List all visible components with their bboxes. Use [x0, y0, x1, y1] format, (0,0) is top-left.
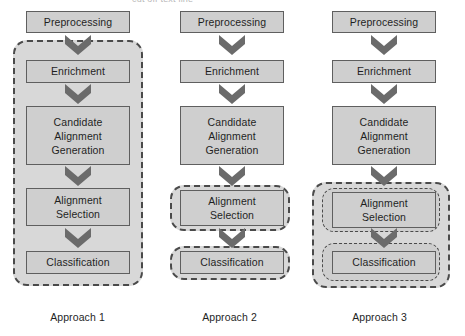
arrow-preprocessing-to-enrichment-1 [65, 35, 91, 56]
node-classification-3[interactable]: Classification [332, 251, 436, 274]
node-label: Enrichment [357, 65, 411, 78]
node-alignment-selection-2[interactable]: Alignment Selection [180, 190, 284, 226]
arrow-candidate-to-selection-1 [65, 166, 91, 187]
node-label-line-2: Alignment [360, 129, 408, 143]
node-label-line-2: Selection [56, 207, 100, 221]
node-candidate-alignment-generation-2[interactable]: Candidate Alignment Generation [180, 106, 284, 165]
node-classification-1[interactable]: Classification [26, 251, 130, 274]
node-label-line-1: Alignment [208, 194, 256, 208]
node-candidate-alignment-generation-1[interactable]: Candidate Alignment Generation [26, 106, 130, 165]
node-enrichment-3[interactable]: Enrichment [332, 60, 436, 83]
arrow-candidate-to-selection-3 [371, 166, 397, 187]
node-classification-2[interactable]: Classification [180, 251, 284, 274]
arrow-selection-to-classification-3 [371, 228, 397, 249]
arrow-selection-to-classification-1 [65, 228, 91, 249]
arrow-selection-to-classification-2 [219, 228, 245, 249]
approach-3-column: Preprocessing Enrichment Candidate Align… [302, 0, 457, 336]
node-preprocessing-3[interactable]: Preprocessing [332, 11, 436, 33]
arrow-preprocessing-to-enrichment-2 [219, 35, 245, 56]
approach-2-caption: Approach 2 [152, 311, 307, 323]
node-enrichment-2[interactable]: Enrichment [180, 60, 284, 83]
node-label-line-1: Alignment [360, 196, 408, 210]
node-label: Preprocessing [350, 16, 418, 29]
arrow-enrichment-to-candidate-3 [371, 84, 397, 105]
node-enrichment-1[interactable]: Enrichment [26, 60, 130, 83]
node-label: Preprocessing [44, 16, 112, 29]
node-preprocessing-1[interactable]: Preprocessing [26, 11, 130, 33]
node-label-line-1: Candidate [54, 115, 103, 129]
node-label-line-1: Alignment [54, 193, 102, 207]
node-label-line-2: Selection [362, 210, 406, 224]
node-label: Classification [46, 256, 109, 269]
arrow-enrichment-to-candidate-1 [65, 84, 91, 105]
approach-2-column: Preprocessing Enrichment Candidate Align… [152, 0, 307, 336]
node-label-line-3: Generation [52, 143, 105, 157]
arrow-preprocessing-to-enrichment-3 [371, 35, 397, 56]
node-preprocessing-2[interactable]: Preprocessing [180, 11, 284, 33]
approach-1-column: Preprocessing Enrichment Candidate Align… [0, 0, 155, 336]
arrow-enrichment-to-candidate-2 [219, 84, 245, 105]
node-label-line-1: Candidate [360, 115, 409, 129]
diagram-canvas: cut off text line Preprocessing Enrichme… [0, 0, 465, 336]
approach-3-caption: Approach 3 [302, 311, 457, 323]
node-label-line-1: Candidate [208, 115, 257, 129]
arrow-candidate-to-selection-2 [219, 166, 245, 187]
node-label: Preprocessing [198, 16, 266, 29]
node-label-line-2: Alignment [54, 129, 102, 143]
node-alignment-selection-1[interactable]: Alignment Selection [26, 188, 130, 226]
node-label: Enrichment [205, 65, 259, 78]
node-label: Classification [200, 256, 263, 269]
node-label: Classification [352, 256, 415, 269]
node-label-line-3: Generation [206, 143, 259, 157]
node-alignment-selection-3[interactable]: Alignment Selection [332, 192, 436, 228]
node-label-line-2: Selection [210, 208, 254, 222]
node-label-line-2: Alignment [208, 129, 256, 143]
node-candidate-alignment-generation-3[interactable]: Candidate Alignment Generation [332, 106, 436, 165]
approach-1-caption: Approach 1 [0, 311, 155, 323]
node-label: Enrichment [51, 65, 105, 78]
node-label-line-3: Generation [358, 143, 411, 157]
